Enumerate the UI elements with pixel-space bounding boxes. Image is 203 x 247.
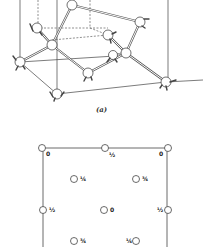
label-top-middle: ½ bbox=[109, 152, 115, 158]
atom bbox=[121, 48, 131, 58]
atom bbox=[135, 17, 145, 27]
plan-atom-center bbox=[101, 207, 108, 214]
plan-atoms bbox=[39, 145, 172, 245]
atom bbox=[103, 30, 113, 40]
atom bbox=[47, 40, 57, 50]
atom bbox=[32, 23, 42, 33]
plan-atom-inner-lower-left bbox=[71, 238, 78, 245]
label-center: 0 bbox=[110, 207, 114, 213]
label-inner-upper-right: ¾ bbox=[142, 176, 148, 182]
label-inner-upper-left: ¼ bbox=[80, 176, 86, 182]
label-middle-right: ½ bbox=[157, 207, 163, 213]
atom bbox=[83, 68, 93, 78]
label-top-right: 0 bbox=[159, 151, 163, 157]
label-top-left: 0 bbox=[46, 151, 50, 157]
label-middle-left: ½ bbox=[49, 207, 55, 213]
plan-atom-middle-left bbox=[40, 207, 47, 214]
atom bbox=[15, 57, 25, 67]
plan-atom-inner-lower-right bbox=[133, 238, 140, 245]
bonds-inner bbox=[20, 5, 166, 82]
plan-atom-top-left bbox=[39, 145, 46, 152]
plan-view bbox=[43, 148, 167, 247]
part-a-caption: (a) bbox=[0, 105, 203, 114]
diamond-structure-figure bbox=[0, 0, 203, 247]
plan-atom-top-right bbox=[165, 145, 172, 152]
plan-atom-middle-right bbox=[165, 207, 172, 214]
label-inner-lower-left: ¾ bbox=[80, 238, 86, 244]
plan-atom-inner-upper-right bbox=[133, 176, 140, 183]
atom bbox=[52, 89, 62, 99]
atom bbox=[67, 0, 77, 10]
plan-atom-top-middle bbox=[102, 145, 109, 152]
plan-atom-inner-upper-left bbox=[71, 176, 78, 183]
label-inner-lower-right: ¼ bbox=[126, 238, 132, 244]
